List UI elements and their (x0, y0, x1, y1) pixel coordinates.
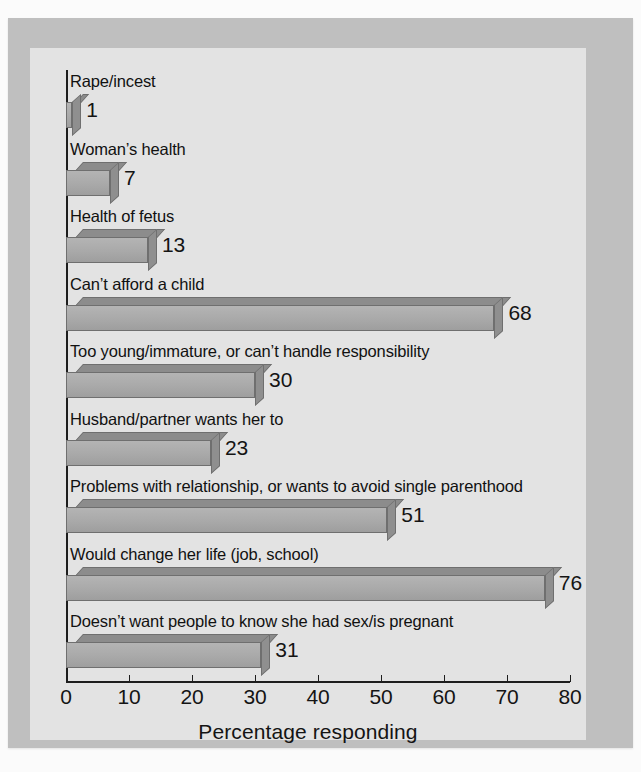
bar-front-face (66, 440, 211, 466)
bar-category-label: Husband/partner wants her to (70, 410, 283, 429)
bar-3d[interactable] (66, 297, 503, 333)
bar-category-label: Health of fetus (70, 207, 174, 226)
bar-front-face (66, 507, 387, 533)
x-tick-label: 0 (60, 685, 71, 709)
x-tick-label: 10 (118, 685, 141, 709)
bar-side-face (261, 634, 270, 676)
bar-front-face (66, 575, 545, 601)
horizontal-bar-chart: Rape/incest1Woman’s health7Health of fet… (30, 48, 586, 740)
bar-3d[interactable] (66, 634, 270, 670)
x-tick-label: 80 (559, 685, 582, 709)
bar-front-face (66, 237, 148, 263)
x-tick-label: 40 (307, 685, 330, 709)
x-axis-title: Percentage responding (30, 720, 586, 744)
x-tick-mark (129, 675, 130, 682)
bar-side-face (148, 229, 157, 271)
x-tick-mark (318, 675, 319, 682)
bar-side-face (255, 364, 264, 406)
bar-value-label: 51 (401, 503, 424, 527)
bar-side-face (494, 296, 503, 338)
x-tick-mark (255, 675, 256, 682)
bar-value-label: 13 (162, 233, 185, 257)
x-tick-mark (192, 675, 193, 682)
figure-frame: Rape/incest1Woman’s health7Health of fet… (8, 18, 633, 748)
bar-side-face (387, 499, 396, 541)
bar-3d[interactable] (66, 94, 81, 130)
bar-value-label: 30 (269, 368, 292, 392)
bar-value-label: 1 (86, 98, 98, 122)
bar-side-face (110, 161, 119, 203)
x-tick-mark (570, 675, 571, 682)
bar-side-face (545, 566, 554, 608)
x-tick-mark (507, 675, 508, 682)
bar-3d[interactable] (66, 499, 396, 535)
bar-category-label: Problems with relationship, or wants to … (70, 477, 523, 496)
bar-front-face (66, 642, 261, 668)
bar-side-face (72, 94, 81, 136)
bar-value-label: 76 (559, 571, 582, 595)
x-tick-mark (66, 675, 67, 682)
x-tick-label: 70 (496, 685, 519, 709)
bar-3d[interactable] (66, 229, 157, 265)
x-tick-label: 20 (181, 685, 204, 709)
bar-value-label: 31 (275, 638, 298, 662)
scanned-page: Rape/incest1Woman’s health7Health of fet… (0, 0, 641, 772)
x-tick-mark (381, 675, 382, 682)
bar-value-label: 7 (124, 166, 136, 190)
bar-category-label: Woman’s health (70, 140, 186, 159)
bar-3d[interactable] (66, 567, 554, 603)
bar-category-label: Rape/incest (70, 72, 155, 91)
bar-front-face (66, 372, 255, 398)
x-tick-label: 30 (244, 685, 267, 709)
bar-3d[interactable] (66, 432, 220, 468)
x-tick-label: 50 (370, 685, 393, 709)
bar-value-label: 23 (225, 436, 248, 460)
bar-front-face (66, 170, 110, 196)
bar-front-face (66, 305, 494, 331)
bar-side-face (211, 431, 220, 473)
bar-value-label: 68 (508, 301, 531, 325)
bar-3d[interactable] (66, 364, 264, 400)
bar-category-label: Would change her life (job, school) (70, 545, 319, 564)
x-tick-label: 60 (433, 685, 456, 709)
x-tick-mark (444, 675, 445, 682)
bar-3d[interactable] (66, 162, 119, 198)
bar-category-label: Too young/immature, or can’t handle resp… (70, 342, 429, 361)
bar-category-label: Can’t afford a child (70, 275, 204, 294)
plot-panel: Rape/incest1Woman’s health7Health of fet… (30, 48, 586, 740)
bar-category-label: Doesn’t want people to know she had sex/… (70, 612, 453, 631)
